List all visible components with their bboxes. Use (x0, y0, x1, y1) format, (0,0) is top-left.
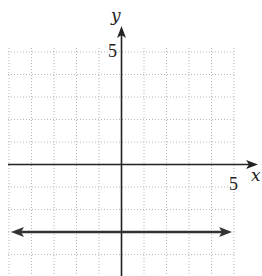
axes (8, 26, 258, 276)
x-axis-label: x (251, 165, 261, 185)
x-tick-label-5: 5 (229, 174, 238, 194)
coordinate-plane: x y 5 5 (0, 0, 262, 276)
y-tick-label-5: 5 (108, 41, 117, 61)
y-axis-label: y (110, 5, 121, 25)
